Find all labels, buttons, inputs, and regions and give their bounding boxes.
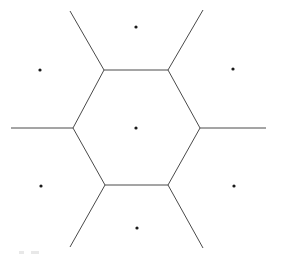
ray-upper-left bbox=[70, 11, 104, 70]
ray-lower-right bbox=[168, 185, 203, 248]
edge-lower-right bbox=[168, 128, 200, 185]
seed-point-upper-right bbox=[231, 67, 234, 70]
edge-lower-left bbox=[73, 128, 105, 185]
seed-point-upper-left bbox=[38, 68, 41, 71]
corner-artifact-group bbox=[19, 251, 39, 254]
corner-mark-2 bbox=[31, 251, 39, 254]
unbounded-ray-group bbox=[11, 10, 266, 248]
corner-mark-1 bbox=[19, 251, 24, 254]
seed-point-bottom bbox=[135, 226, 138, 229]
seed-point-center bbox=[134, 126, 137, 129]
seed-point-lower-left bbox=[39, 184, 42, 187]
edge-upper-right bbox=[168, 70, 200, 128]
ray-lower-left bbox=[70, 185, 105, 247]
seed-point-lower-right bbox=[232, 184, 235, 187]
voronoi-canvas bbox=[0, 0, 281, 260]
ray-upper-right bbox=[168, 10, 203, 70]
seed-point-top bbox=[134, 25, 137, 28]
edge-upper-left bbox=[73, 70, 104, 128]
voronoi-figure bbox=[0, 0, 281, 260]
